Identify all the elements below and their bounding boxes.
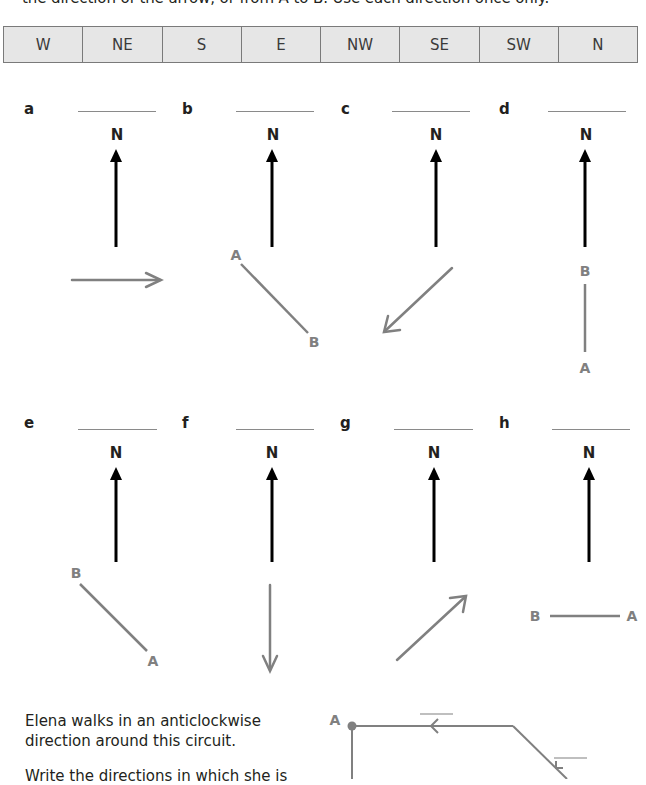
point-b-label: B xyxy=(71,565,82,581)
point-b-label: B xyxy=(530,608,541,624)
north-arrow-icon xyxy=(430,149,442,247)
segment-ab-b xyxy=(241,264,308,333)
point-b-label: B xyxy=(309,334,320,350)
north-arrow-icon xyxy=(110,149,122,247)
north-arrow-icon xyxy=(583,467,595,562)
arrow-south-icon xyxy=(263,585,277,671)
circuit-text-line2: direction around this circuit. xyxy=(25,731,236,751)
north-arrow-icon xyxy=(266,467,278,562)
circuit-text-line3: Write the directions in which she is xyxy=(25,766,287,785)
north-arrow-icon xyxy=(110,467,122,562)
north-arrow-icon xyxy=(579,149,591,247)
circuit-diagram xyxy=(352,719,567,779)
segment-ab-e xyxy=(80,584,147,651)
point-a-label: A xyxy=(148,653,159,669)
point-a-label: A xyxy=(231,247,242,263)
point-a-label: A xyxy=(580,360,591,376)
arrow-east-icon xyxy=(72,273,161,287)
point-a-label: A xyxy=(627,608,638,624)
circuit-point-a-label: A xyxy=(330,712,341,728)
north-arrow-icon xyxy=(428,467,440,562)
arrow-northeast-icon xyxy=(397,596,466,660)
point-b-label: B xyxy=(580,263,591,279)
arrow-southwest-icon xyxy=(384,268,452,332)
circuit-start-dot xyxy=(348,722,357,731)
circuit-text-line1: Elena walks in an anticlockwise xyxy=(25,711,261,731)
north-arrow-icon xyxy=(266,149,278,247)
